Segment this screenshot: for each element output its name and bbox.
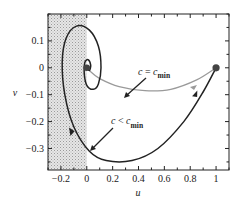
y-tick-label: 0.1 xyxy=(32,35,45,46)
phase-plane-chart: −0.200.20.40.60.810.10−0.1−0.2−0.3 u v c… xyxy=(0,0,242,203)
svg-text:c < cmin: c < cmin xyxy=(111,115,144,130)
annotation-c-less-than-cmin: c < cmin xyxy=(90,115,144,151)
x-tick-label: 0 xyxy=(84,173,89,184)
x-tick-label: 0.4 xyxy=(132,173,145,184)
arrowhead-gray-icon xyxy=(190,85,197,90)
y-axis-label: v xyxy=(13,87,18,98)
x-axis-label: u xyxy=(136,187,141,198)
svg-text:c = cmin: c = cmin xyxy=(138,66,171,80)
x-tick-label: 0.8 xyxy=(184,173,197,184)
y-tick-label: −0.1 xyxy=(26,89,44,100)
y-tick-label: −0.2 xyxy=(26,116,44,127)
y-tick-label: −0.3 xyxy=(26,143,44,154)
annotation-c-equals-cmin: c = cmin xyxy=(124,66,171,98)
saddle-point-marker xyxy=(212,64,219,71)
annotation-pointer-line xyxy=(93,128,113,148)
y-tick-label: 0 xyxy=(39,62,44,73)
x-tick-label: 0.2 xyxy=(106,173,119,184)
forbidden-region-shading xyxy=(48,14,87,170)
origin-point-marker xyxy=(83,64,90,71)
x-tick-label: 1 xyxy=(214,173,219,184)
x-tick-label: 0.6 xyxy=(158,173,171,184)
x-tick-label: −0.2 xyxy=(52,173,70,184)
arrowhead-black-icon xyxy=(192,90,199,98)
annotation-pointer-line xyxy=(127,78,146,95)
